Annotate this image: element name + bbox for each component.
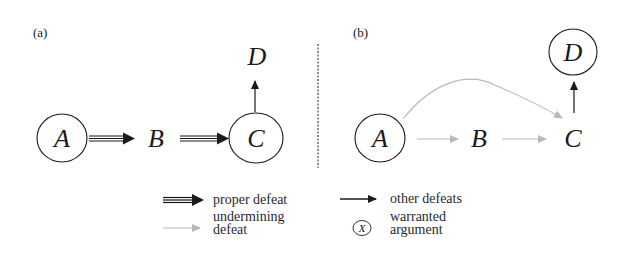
node-d-right: D xyxy=(549,29,597,75)
legend-warranted-label-2: argument xyxy=(390,222,443,237)
legend-proper-defeat-symbol xyxy=(163,194,204,206)
legend-other-defeats-label: other defeats xyxy=(390,191,462,206)
edge-a-b-proper-defeat xyxy=(89,133,135,145)
panel-a: (a) A B C D xyxy=(33,25,283,163)
node-label: C xyxy=(247,124,265,153)
edge-b-c-proper-defeat xyxy=(180,133,229,145)
panel-b-tag: (b) xyxy=(353,25,368,40)
legend-warranted-symbol: X xyxy=(353,221,371,236)
legend-undermining-label-2: defeat xyxy=(213,222,247,237)
node-c-left: C xyxy=(229,113,283,163)
node-label: A xyxy=(52,124,70,153)
legend: proper defeat undermining defeat other d… xyxy=(163,191,462,237)
node-a-right: A xyxy=(355,114,405,162)
node-a-left: A xyxy=(37,114,87,162)
legend-proper-defeat-label: proper defeat xyxy=(213,192,287,207)
node-b-left: B xyxy=(148,124,164,153)
node-label: A xyxy=(370,124,388,153)
panel-b: (b) A B C D xyxy=(353,25,597,162)
node-c-right: C xyxy=(564,124,582,153)
edge-a-c-undermining-defeat-curved xyxy=(403,79,562,119)
argumentation-diagram: (a) A B C D xyxy=(0,0,631,256)
panel-a-tag: (a) xyxy=(33,25,47,40)
node-d-left: D xyxy=(247,42,267,71)
node-label: D xyxy=(563,38,583,67)
legend-warranted-symbol-letter: X xyxy=(358,222,367,234)
node-b-right: B xyxy=(471,124,487,153)
